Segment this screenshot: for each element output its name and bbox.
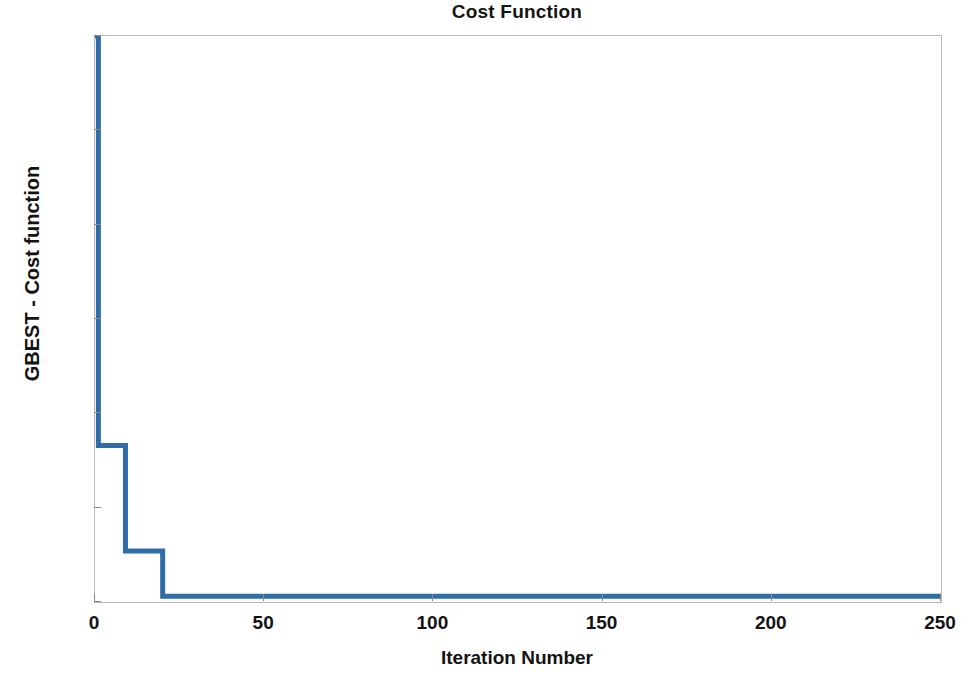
chart-title: Cost Function [94,1,940,23]
cost-function-figure: Cost Function GBEST - Cost function 19.5… [0,0,972,678]
y-tickmark [94,318,101,319]
x-tick-label-0: 0 [49,612,139,634]
y-tickmark [94,35,101,36]
x-tickmark [940,594,941,601]
x-tick-label-2: 100 [387,612,477,634]
plot-area [94,35,942,603]
x-tickmark [94,594,95,601]
y-tickmark [94,412,101,413]
y-tickmark [94,601,101,602]
plot-svg [95,36,941,602]
x-tick-label-3: 150 [557,612,647,634]
y-tickmark [94,129,101,130]
x-tickmark [771,594,772,601]
y-tickmark [94,507,101,508]
y-axis-title: GBEST - Cost function [21,24,44,524]
x-tick-label-1: 50 [218,612,308,634]
x-tick-label-4: 200 [726,612,816,634]
x-tickmark [263,594,264,601]
cost-function-line [95,36,941,596]
x-tickmark [432,594,433,601]
y-tickmark [94,224,101,225]
x-tick-label-5: 250 [895,612,972,634]
x-tickmark [602,594,603,601]
x-axis-title: Iteration Number [94,647,940,669]
